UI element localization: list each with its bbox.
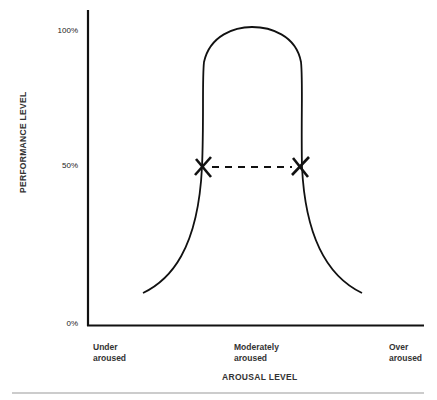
performance-curve xyxy=(143,27,362,293)
x-tick-under-line2: aroused xyxy=(93,353,126,364)
x-tick-under-line1: Under xyxy=(93,342,126,353)
x-tick-under-aroused: Under aroused xyxy=(93,342,126,364)
x-tick-over-line1: Over xyxy=(389,342,422,353)
y-tick-100: 100% xyxy=(38,26,78,35)
x-tick-moderate-line1: Moderately xyxy=(234,342,279,353)
x-tick-over-aroused: Over aroused xyxy=(389,342,422,364)
x-tick-over-line2: aroused xyxy=(389,353,422,364)
y-tick-0: 0% xyxy=(38,319,78,328)
y-axis-label: PERFORMANCE LEVEL xyxy=(18,93,28,193)
y-tick-50: 50% xyxy=(38,161,78,170)
x-marker-right xyxy=(292,157,309,177)
x-tick-moderately-aroused: Moderately aroused xyxy=(234,342,279,364)
x-tick-moderate-line2: aroused xyxy=(234,353,279,364)
x-axis-label: AROUSAL LEVEL xyxy=(222,372,298,382)
chart-canvas xyxy=(0,0,437,400)
